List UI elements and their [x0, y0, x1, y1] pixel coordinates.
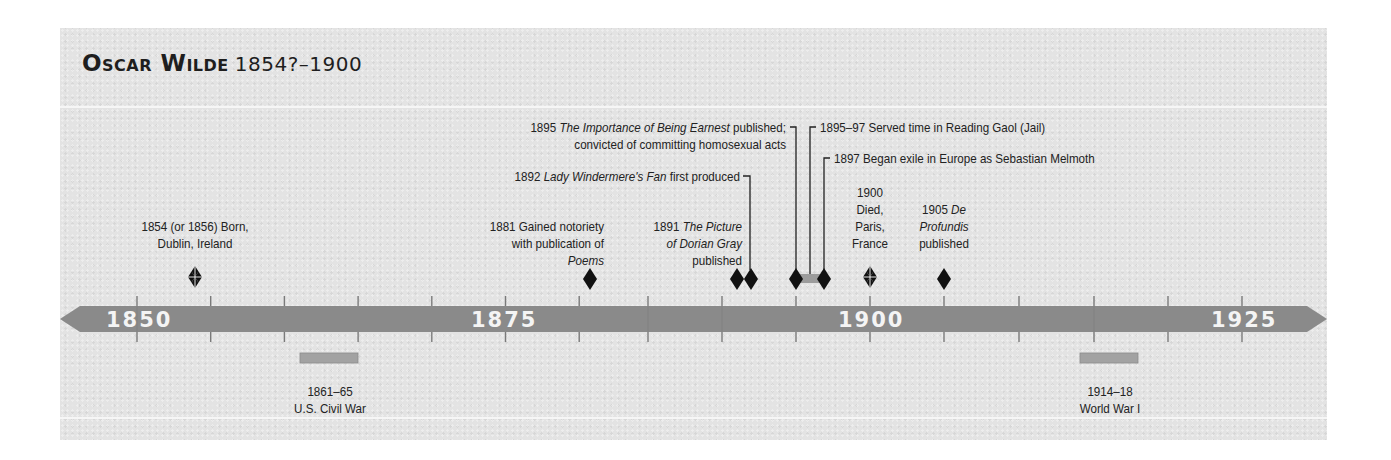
uncertain-markers: [188, 266, 877, 288]
civil-war-span-bar: [300, 353, 358, 363]
diamond-icon-1881: [583, 268, 597, 290]
context-wwi-label: 1914–18 World War I: [1058, 383, 1161, 417]
split-lines: [188, 266, 877, 288]
diamond-icon-1891: [730, 268, 744, 290]
axis-arrow-bar: [60, 306, 1327, 332]
diamond-icon-1905: [937, 268, 951, 290]
event-profundis-label: 1905 De Profundis published: [910, 201, 979, 252]
event-dorian-label: 1891 The Picture of Dorian Gray publishe…: [623, 218, 742, 269]
event-windermere-label: 1892 Lady Windermere's Fan first produce…: [465, 168, 740, 185]
event-died-label: 1900 Died, Paris, France: [844, 184, 896, 252]
event-earnest-label: 1895 The Importance of Being Earnest pub…: [454, 119, 786, 153]
diamond-icon-1892: [744, 268, 758, 290]
year-label-1850: 1850: [106, 308, 172, 332]
year-label-1900: 1900: [838, 308, 904, 332]
wwi-span-bar: [1080, 353, 1138, 363]
event-gaol-label: 1895–97 Served time in Reading Gaol (Jai…: [820, 119, 1045, 136]
event-poems-label: 1881 Gained notoriety with publication o…: [463, 218, 604, 269]
event-markers: [583, 268, 951, 290]
year-label-1875: 1875: [471, 308, 537, 332]
context-civil-war-label: 1861–65 U.S. Civil War: [278, 383, 381, 417]
diamond-icon-1895: [789, 268, 803, 290]
event-exile-label: 1897 Began exile in Europe as Sebastian …: [834, 150, 1095, 167]
event-born-label: 1854 (or 1856) Born, Dublin, Ireland: [129, 218, 261, 252]
year-label-1925: 1925: [1211, 308, 1277, 332]
diamond-icon-1897: [817, 268, 831, 290]
